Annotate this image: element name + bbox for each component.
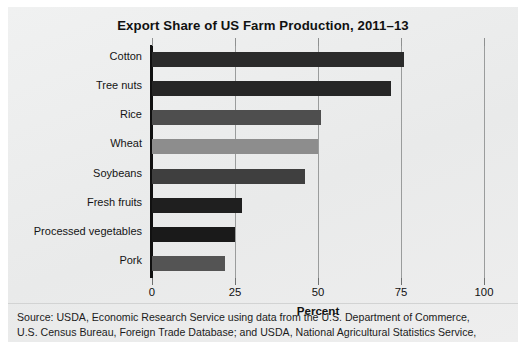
bar-processed-vegetables: [152, 227, 235, 242]
x-tick-label-25: 25: [229, 286, 242, 298]
bar-pork: [152, 256, 225, 271]
bar-row: Soybeans: [152, 162, 484, 191]
bar-fresh-fruits: [152, 198, 242, 213]
category-label-pork: Pork: [119, 254, 142, 266]
gridline-100: [484, 45, 485, 278]
x-tick-label-50: 50: [312, 286, 325, 298]
source-note: Source: USDA, Economic Research Service …: [17, 310, 510, 339]
tick-bottom-75: [401, 278, 402, 285]
category-label-wheat: Wheat: [110, 137, 142, 149]
chart-panel: Export Share of US Farm Production, 2011…: [8, 7, 518, 342]
tick-top-100: [484, 38, 485, 46]
tick-bottom-0: [152, 278, 153, 285]
tick-bottom-100: [484, 278, 485, 285]
bar-row: Processed vegetables: [152, 220, 484, 249]
category-label-fresh-fruits: Fresh fruits: [87, 196, 142, 208]
bar-soybeans: [152, 169, 305, 184]
tick-bottom-50: [318, 278, 319, 285]
category-label-cotton: Cotton: [110, 50, 142, 62]
bar-row: Cotton: [152, 45, 484, 74]
bar-row: Wheat: [152, 132, 484, 161]
figure: Export Share of US Farm Production, 2011…: [0, 0, 526, 342]
category-label-soybeans: Soybeans: [93, 167, 142, 179]
x-tick-label-0: 0: [149, 286, 155, 298]
category-label-tree-nuts: Tree nuts: [96, 79, 142, 91]
bar-cotton: [152, 52, 404, 67]
note-divider: [8, 303, 518, 304]
x-tick-label-100: 100: [475, 286, 494, 298]
category-label-processed-vegetables: Processed vegetables: [34, 225, 142, 237]
bar-tree-nuts: [152, 81, 391, 96]
source-note-line-2: U.S. Census Bureau, Foreign Trade Databa…: [17, 325, 510, 340]
bar-row: Pork: [152, 249, 484, 278]
bar-wheat: [152, 139, 318, 154]
plot-area: CottonTree nutsRiceWheatSoybeansFresh fr…: [152, 45, 484, 278]
tick-bottom-25: [235, 278, 236, 285]
bar-row: Tree nuts: [152, 74, 484, 103]
x-tick-label-75: 75: [395, 286, 408, 298]
bar-row: Rice: [152, 103, 484, 132]
page-title: Export Share of US Farm Production, 2011…: [8, 18, 518, 33]
bar-row: Fresh fruits: [152, 191, 484, 220]
source-note-line-1: Source: USDA, Economic Research Service …: [17, 310, 510, 325]
bar-rice: [152, 110, 321, 125]
category-label-rice: Rice: [120, 108, 142, 120]
